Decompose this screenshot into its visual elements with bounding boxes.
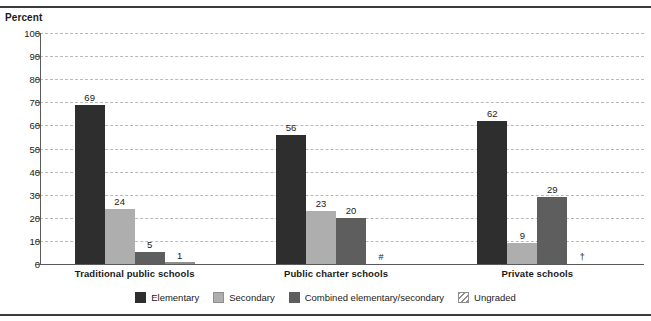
- bar-value-label: 29: [547, 184, 558, 195]
- legend-item-ungraded[interactable]: Ungraded: [458, 292, 516, 303]
- bar-combined-group-1[interactable]: 5: [135, 252, 165, 264]
- bar-value-label: 56: [286, 122, 297, 133]
- bar-combined-group-3[interactable]: 29: [537, 197, 567, 264]
- legend-label: Secondary: [229, 292, 274, 303]
- bar-elementary-group-3[interactable]: 62: [477, 121, 507, 264]
- legend-item-combined[interactable]: Combined elementary/secondary: [289, 292, 444, 303]
- legend-label: Combined elementary/secondary: [305, 292, 444, 303]
- legend-item-elementary[interactable]: Elementary: [135, 292, 199, 303]
- y-axis-ticks: 1009080706050403020100: [0, 33, 40, 264]
- x-axis-group-label-3: Private schools: [501, 268, 573, 279]
- bar-suppressed-marker-ungraded-group-3: †: [580, 252, 585, 262]
- bar-value-label: 9: [520, 230, 525, 241]
- bar-value-label: 20: [346, 205, 357, 216]
- bar-value-label: 5: [147, 239, 152, 250]
- legend-label: Elementary: [151, 292, 199, 303]
- bar-value-label: 23: [316, 198, 327, 209]
- legend-swatch-ungraded-icon: [458, 292, 469, 303]
- bar-value-label: 62: [487, 108, 498, 119]
- bar-value-label: 69: [84, 92, 95, 103]
- bar-elementary-group-1[interactable]: 69: [75, 105, 105, 264]
- bar-combined-group-2[interactable]: 20: [336, 218, 366, 264]
- x-axis-group-label-1: Traditional public schools: [75, 268, 195, 279]
- bar-elementary-group-2[interactable]: 56: [276, 135, 306, 264]
- y-axis-title: Percent: [5, 12, 42, 23]
- legend-item-secondary[interactable]: Secondary: [213, 292, 274, 303]
- bar-secondary-group-2[interactable]: 23: [306, 211, 336, 264]
- x-axis-line: [40, 264, 644, 265]
- bar-suppressed-marker-ungraded-group-2: #: [378, 252, 383, 262]
- bar-value-label: 24: [114, 196, 125, 207]
- bar-secondary-group-3[interactable]: 9: [507, 243, 537, 264]
- legend-swatch-elementary-icon: [135, 292, 146, 303]
- chart-page: Percent 1009080706050403020100 692451562…: [0, 0, 651, 321]
- x-axis-group-label-2: Public charter schools: [284, 268, 388, 279]
- legend-swatch-secondary-icon: [213, 292, 224, 303]
- bars-layer: 692451562320#62929†: [40, 33, 644, 264]
- legend-swatch-combined-icon: [289, 292, 300, 303]
- top-divider-rule: [0, 6, 651, 8]
- chart-legend: ElementarySecondaryCombined elementary/s…: [0, 292, 651, 303]
- bar-ungraded-group-1[interactable]: 1: [165, 262, 195, 264]
- bottom-divider-rule: [0, 314, 651, 316]
- legend-label: Ungraded: [474, 292, 516, 303]
- bar-secondary-group-1[interactable]: 24: [105, 209, 135, 264]
- bar-value-label: 1: [177, 250, 182, 261]
